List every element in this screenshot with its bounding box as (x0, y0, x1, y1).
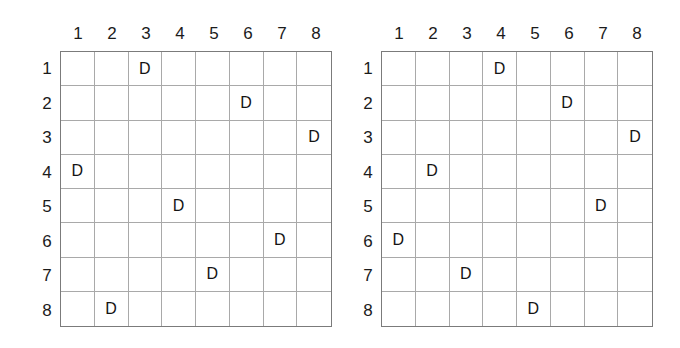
cell-r1-c5[interactable] (196, 52, 230, 86)
cell-r4-c2[interactable] (95, 155, 129, 189)
cell-r7-c8[interactable] (297, 258, 331, 292)
cell-r2-c3[interactable] (450, 86, 484, 120)
cell-r8-c3[interactable] (450, 292, 484, 326)
cell-r2-c4[interactable] (162, 86, 196, 120)
cell-r7-c7[interactable] (264, 258, 298, 292)
cell-r3-c5[interactable] (517, 121, 551, 155)
cell-r5-c6[interactable] (551, 189, 585, 223)
cell-r2-c4[interactable] (483, 86, 517, 120)
cell-r3-c5[interactable] (196, 121, 230, 155)
cell-r3-c2[interactable] (95, 121, 129, 155)
cell-r1-c8[interactable] (297, 52, 331, 86)
cell-r1-c4[interactable] (162, 52, 196, 86)
cell-r1-c6[interactable] (551, 52, 585, 86)
cell-r7-c4[interactable] (483, 258, 517, 292)
cell-r3-c4[interactable] (483, 121, 517, 155)
cell-r7-c2[interactable] (95, 258, 129, 292)
cell-r7-c6[interactable] (230, 258, 264, 292)
cell-r2-c1[interactable] (61, 86, 95, 120)
cell-r7-c1[interactable] (382, 258, 416, 292)
cell-r6-c3[interactable] (129, 223, 163, 257)
cell-r4-c4[interactable] (483, 155, 517, 189)
cell-r5-c2[interactable] (95, 189, 129, 223)
cell-r6-c5[interactable] (517, 223, 551, 257)
cell-r8-c3[interactable] (129, 292, 163, 326)
cell-r7-c3[interactable] (129, 258, 163, 292)
cell-r6-c6[interactable] (230, 223, 264, 257)
cell-r1-c8[interactable] (618, 52, 652, 86)
cell-r3-c1[interactable] (382, 121, 416, 155)
cell-r8-c2[interactable] (416, 292, 450, 326)
cell-r3-c2[interactable] (416, 121, 450, 155)
cell-r5-c8[interactable] (618, 189, 652, 223)
cell-r7-c7[interactable] (585, 258, 619, 292)
cell-r8-c1[interactable] (61, 292, 95, 326)
cell-r5-c7[interactable]: D (585, 189, 619, 223)
cell-r2-c7[interactable] (264, 86, 298, 120)
board-left[interactable]: DDDDDDDD (60, 51, 332, 327)
cell-r2-c8[interactable] (618, 86, 652, 120)
cell-r3-c8[interactable]: D (297, 121, 331, 155)
cell-r4-c7[interactable] (585, 155, 619, 189)
cell-r3-c6[interactable] (551, 121, 585, 155)
cell-r1-c2[interactable] (95, 52, 129, 86)
cell-r4-c5[interactable] (196, 155, 230, 189)
cell-r1-c6[interactable] (230, 52, 264, 86)
cell-r5-c4[interactable] (483, 189, 517, 223)
cell-r5-c6[interactable] (230, 189, 264, 223)
cell-r5-c3[interactable] (450, 189, 484, 223)
cell-r4-c6[interactable] (551, 155, 585, 189)
cell-r4-c8[interactable] (297, 155, 331, 189)
cell-r6-c2[interactable] (95, 223, 129, 257)
cell-r4-c5[interactable] (517, 155, 551, 189)
cell-r1-c7[interactable] (585, 52, 619, 86)
cell-r1-c7[interactable] (264, 52, 298, 86)
cell-r3-c6[interactable] (230, 121, 264, 155)
cell-r2-c2[interactable] (416, 86, 450, 120)
cell-r1-c1[interactable] (382, 52, 416, 86)
cell-r3-c1[interactable] (61, 121, 95, 155)
cell-r4-c4[interactable] (162, 155, 196, 189)
board-right[interactable]: DDDDDDDD (381, 51, 653, 327)
cell-r6-c5[interactable] (196, 223, 230, 257)
cell-r6-c7[interactable]: D (264, 223, 298, 257)
cell-r7-c5[interactable] (517, 258, 551, 292)
cell-r1-c2[interactable] (416, 52, 450, 86)
cell-r4-c2[interactable]: D (416, 155, 450, 189)
cell-r2-c6[interactable]: D (230, 86, 264, 120)
cell-r7-c1[interactable] (61, 258, 95, 292)
cell-r6-c7[interactable] (585, 223, 619, 257)
cell-r7-c2[interactable] (416, 258, 450, 292)
cell-r4-c1[interactable]: D (61, 155, 95, 189)
cell-r5-c5[interactable] (196, 189, 230, 223)
cell-r6-c6[interactable] (551, 223, 585, 257)
cell-r2-c7[interactable] (585, 86, 619, 120)
cell-r2-c1[interactable] (382, 86, 416, 120)
cell-r1-c3[interactable]: D (129, 52, 163, 86)
cell-r4-c6[interactable] (230, 155, 264, 189)
cell-r3-c8[interactable]: D (618, 121, 652, 155)
cell-r1-c3[interactable] (450, 52, 484, 86)
cell-r5-c5[interactable] (517, 189, 551, 223)
cell-r4-c1[interactable] (382, 155, 416, 189)
cell-r5-c2[interactable] (416, 189, 450, 223)
cell-r3-c3[interactable] (129, 121, 163, 155)
cell-r3-c7[interactable] (585, 121, 619, 155)
cell-r5-c4[interactable]: D (162, 189, 196, 223)
cell-r2-c5[interactable] (517, 86, 551, 120)
cell-r5-c8[interactable] (297, 189, 331, 223)
cell-r8-c8[interactable] (297, 292, 331, 326)
cell-r6-c4[interactable] (483, 223, 517, 257)
cell-r8-c6[interactable] (551, 292, 585, 326)
cell-r3-c3[interactable] (450, 121, 484, 155)
cell-r7-c3[interactable]: D (450, 258, 484, 292)
cell-r8-c5[interactable]: D (517, 292, 551, 326)
cell-r2-c2[interactable] (95, 86, 129, 120)
cell-r3-c7[interactable] (264, 121, 298, 155)
cell-r6-c2[interactable] (416, 223, 450, 257)
cell-r8-c2[interactable]: D (95, 292, 129, 326)
cell-r8-c7[interactable] (264, 292, 298, 326)
cell-r6-c8[interactable] (297, 223, 331, 257)
cell-r1-c1[interactable] (61, 52, 95, 86)
cell-r1-c4[interactable]: D (483, 52, 517, 86)
